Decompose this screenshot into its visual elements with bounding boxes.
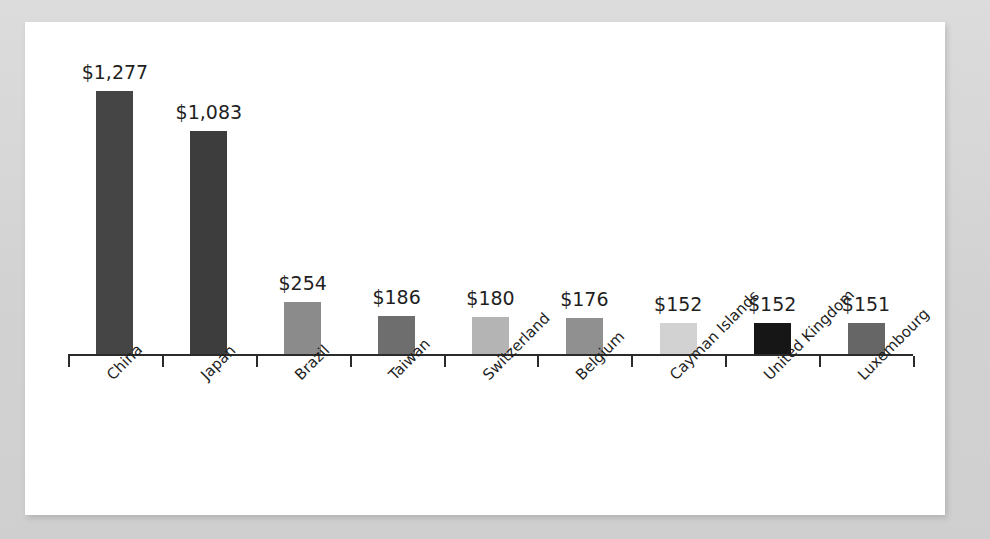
x-axis-tick — [725, 356, 727, 367]
x-axis-tick — [162, 356, 164, 367]
chart-card: $1,277China$1,083Japan$254Brazil$186Taiw… — [25, 22, 945, 515]
bar-value-label: $1,083 — [159, 101, 259, 123]
bar-value-label: $186 — [347, 286, 447, 308]
bar[interactable] — [96, 91, 133, 354]
x-axis-tick — [350, 356, 352, 367]
bar-chart-plot-area: $1,277China$1,083Japan$254Brazil$186Taiw… — [25, 22, 945, 515]
bar-value-label: $152 — [628, 293, 728, 315]
x-axis-tick — [444, 356, 446, 367]
bar-value-label: $176 — [534, 288, 634, 310]
bar[interactable] — [190, 131, 227, 354]
bar-value-label: $180 — [441, 287, 541, 309]
bar-value-label: $1,277 — [65, 61, 165, 83]
bar-value-label: $254 — [253, 272, 353, 294]
x-axis-tick — [256, 356, 258, 367]
x-axis-tick — [68, 356, 70, 367]
bar-value-label: $151 — [816, 293, 916, 315]
x-axis-tick — [631, 356, 633, 367]
x-axis-tick — [913, 356, 915, 367]
chart-screenshot: $1,277China$1,083Japan$254Brazil$186Taiw… — [0, 0, 990, 539]
x-axis-tick — [819, 356, 821, 367]
bar-value-label: $152 — [722, 293, 822, 315]
x-axis-tick — [537, 356, 539, 367]
